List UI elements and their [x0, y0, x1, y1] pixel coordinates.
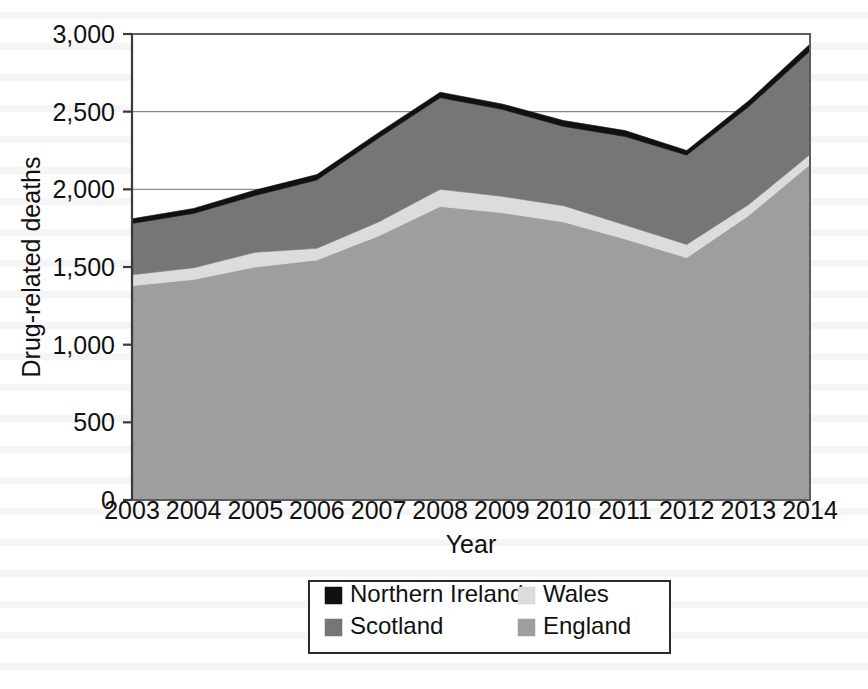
- y-axis-tick-labels: 05001,0001,5002,0002,5003,000: [52, 20, 115, 514]
- y-tick-label-1500: 1,500: [52, 253, 115, 281]
- y-tick-label-2500: 2,500: [52, 98, 115, 126]
- y-axis-ticks: [123, 34, 132, 500]
- y-tick-label-1000: 1,000: [52, 331, 115, 359]
- legend-swatch-northern-ireland: [325, 587, 342, 604]
- x-tick-label-2007: 2007: [351, 496, 407, 524]
- x-tick-label-2005: 2005: [227, 496, 283, 524]
- x-tick-label-2004: 2004: [166, 496, 222, 524]
- legend-label-scotland: Scotland: [350, 612, 443, 639]
- x-tick-label-2011: 2011: [598, 496, 652, 524]
- x-tick-label-2006: 2006: [289, 496, 345, 524]
- x-axis-title: Year: [446, 530, 497, 558]
- x-tick-label-2003: 2003: [104, 496, 160, 524]
- legend-label-england: England: [543, 612, 631, 639]
- x-tick-label-2010: 2010: [536, 496, 592, 524]
- legend: Northern IrelandWalesScotlandEngland: [309, 580, 670, 653]
- x-tick-label-2014: 2014: [782, 496, 838, 524]
- legend-swatch-wales: [518, 587, 535, 604]
- y-axis-title: Drug-related deaths: [17, 157, 45, 378]
- x-tick-label-2012: 2012: [659, 496, 715, 524]
- y-tick-label-3000: 3,000: [52, 20, 115, 48]
- x-tick-label-2008: 2008: [412, 496, 468, 524]
- y-tick-label-2000: 2,000: [52, 175, 115, 203]
- legend-label-wales: Wales: [543, 580, 609, 607]
- legend-label-northern-ireland: Northern Ireland: [350, 580, 523, 607]
- x-tick-label-2013: 2013: [721, 496, 777, 524]
- x-tick-label-2009: 2009: [474, 496, 530, 524]
- legend-swatch-england: [518, 619, 535, 636]
- stacked-area-chart: 05001,0001,5002,0002,5003,000 2003200420…: [0, 0, 868, 689]
- legend-swatch-scotland: [325, 619, 342, 636]
- y-tick-label-500: 500: [73, 408, 115, 436]
